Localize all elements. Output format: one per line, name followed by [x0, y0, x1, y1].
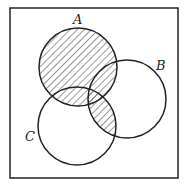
label-set-a: A [72, 12, 82, 27]
label-set-c: C [25, 129, 35, 144]
venn-diagram: A B C [0, 0, 192, 188]
label-set-b: B [155, 58, 166, 73]
